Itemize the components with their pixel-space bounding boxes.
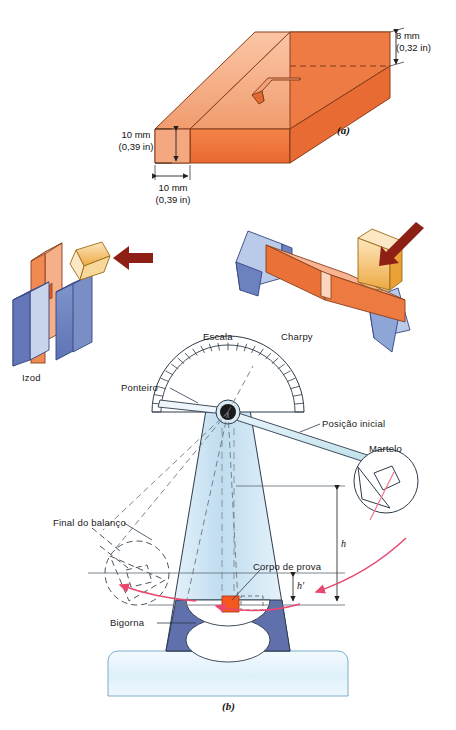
scale-label: Escala (203, 331, 233, 342)
specimen-label: Corpo de prova (253, 561, 321, 572)
hammer-disc (354, 449, 418, 513)
panel-a-label: (a) (337, 124, 350, 136)
izod-test-illustration (13, 242, 153, 366)
hammer-end-of-swing (92, 528, 169, 605)
dimension-8mm: 8 mm (0,32 in) (396, 30, 431, 53)
start-position-label: Posição inicial (322, 418, 385, 429)
panel-b-label: (b) (222, 700, 235, 712)
charpy-label: Charpy (281, 331, 313, 342)
h-label: h (341, 538, 346, 549)
dimension-10mm-width: 10 mm (0,39 in) (138, 182, 208, 205)
dimension-10mm-height: 10 mm (0,39 in) (101, 129, 171, 152)
izod-label: Izod (22, 372, 41, 383)
figure-artwork (0, 0, 456, 730)
end-of-swing-label: Final do balanço (53, 517, 126, 528)
dimension-10mm-width-metric: 10 mm (158, 182, 187, 193)
h-prime-label: h' (297, 580, 304, 591)
dimension-10mm-height-imperial: (0,39 in) (119, 141, 154, 152)
charpy-test-illustration (236, 222, 424, 352)
hammer-label: Martelo (369, 443, 402, 454)
dimension-10mm-height-metric: 10 mm (121, 129, 150, 140)
dimension-10mm-width-imperial: (0,39 in) (156, 194, 191, 205)
impact-test-figure: 8 mm (0,32 in) 10 mm (0,39 in) 10 mm (0,… (0, 0, 456, 730)
izod-impact-arrow (113, 246, 153, 270)
pointer-label: Ponteiro (121, 382, 158, 393)
dimension-8mm-imperial: (0,32 in) (396, 42, 431, 53)
dimension-8mm-metric: 8 mm (396, 30, 420, 41)
specimen-bar-3d (155, 32, 390, 163)
anvil-label: Bigorna (110, 617, 144, 628)
